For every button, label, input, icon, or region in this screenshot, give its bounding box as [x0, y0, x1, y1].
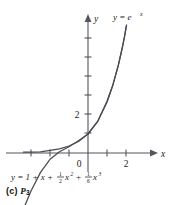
figure-caption-subscript: 3 — [26, 189, 30, 196]
poly-term2-power: 2 — [71, 171, 74, 177]
poly-term2-denominator: 2 — [59, 178, 62, 184]
y-axis-label: y — [93, 14, 99, 24]
poly-term3-power: 3 — [98, 171, 102, 177]
x-axis-arrowhead — [150, 150, 158, 157]
figure-caption-prefix: (c) — [6, 186, 18, 196]
poly-term3-variable: x — [92, 172, 97, 182]
curve-cubic-annotation-main: y = 1 + x + — [10, 172, 53, 182]
figure-caption: (c) P3 — [6, 186, 30, 196]
y-tick-label-2: 2 — [75, 110, 80, 120]
curve-exponential-annotation-base: y = e — [112, 12, 132, 22]
origin-label: 0 — [77, 159, 82, 169]
taylor-polynomial-figure: x y 0 2 2 y = e x y = 1 + x + 1 2 x 2 + … — [0, 0, 174, 205]
poly-term3-numerator: 1 — [87, 171, 90, 177]
poly-term2-numerator: 1 — [59, 171, 62, 177]
x-tick-label-2: 2 — [124, 159, 129, 169]
graph-canvas: x y 0 2 2 y = e x y = 1 + x + 1 2 x 2 + … — [0, 0, 174, 205]
curve-exponential-annotation: y = e x — [112, 11, 143, 23]
curve-exponential — [23, 27, 126, 153]
x-axis-label: x — [160, 149, 166, 159]
poly-term3-denominator: 6 — [87, 178, 90, 184]
y-axis-arrowhead — [85, 14, 92, 22]
curve-exponential-annotation-exponent: x — [139, 11, 143, 17]
poly-term2-variable: x — [64, 172, 69, 182]
curve-cubic-annotation: y = 1 + x + 1 2 x 2 + 1 6 x 3 — [10, 171, 102, 185]
poly-plus-sign: + — [76, 172, 81, 182]
